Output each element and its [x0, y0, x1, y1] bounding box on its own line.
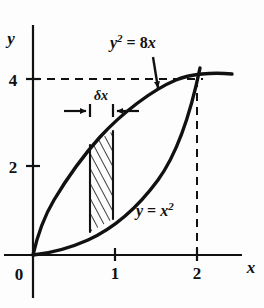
- x-axis-label: x: [246, 258, 256, 277]
- lower-curve-label-var: x: [159, 202, 168, 219]
- delta-x-label: δx: [94, 88, 108, 103]
- lower-curve-label-text: y = x2: [134, 200, 174, 220]
- origin-label: 0: [15, 265, 24, 284]
- lower-curve-annotation: y = x2: [134, 200, 174, 220]
- x-tick-label-1: 1: [111, 264, 120, 283]
- graph-svg: 4 2 1 2 0 y x y2 = 8x y = x2 δx: [0, 0, 264, 308]
- figure-container: 4 2 1 2 0 y x y2 = 8x y = x2 δx: [0, 0, 264, 308]
- y-axis-label: y: [5, 29, 15, 48]
- upper-curve-leader-arrow: [153, 57, 158, 88]
- upper-curve-label-var: x: [147, 34, 156, 51]
- curve-y-equals-x-squared: [33, 68, 200, 255]
- x-tick-label-2: 2: [193, 264, 202, 283]
- upper-curve-label-equals: = 8: [123, 34, 148, 51]
- y-tick-label-4: 4: [9, 71, 18, 90]
- lower-curve-label-equals: =: [143, 202, 160, 219]
- curve-y-squared-equals-8x: [33, 73, 232, 255]
- lower-curve-label-exponent: 2: [167, 200, 174, 212]
- upper-curve-label-text: y2 = 8x: [108, 32, 156, 52]
- y-tick-label-2: 2: [9, 158, 18, 177]
